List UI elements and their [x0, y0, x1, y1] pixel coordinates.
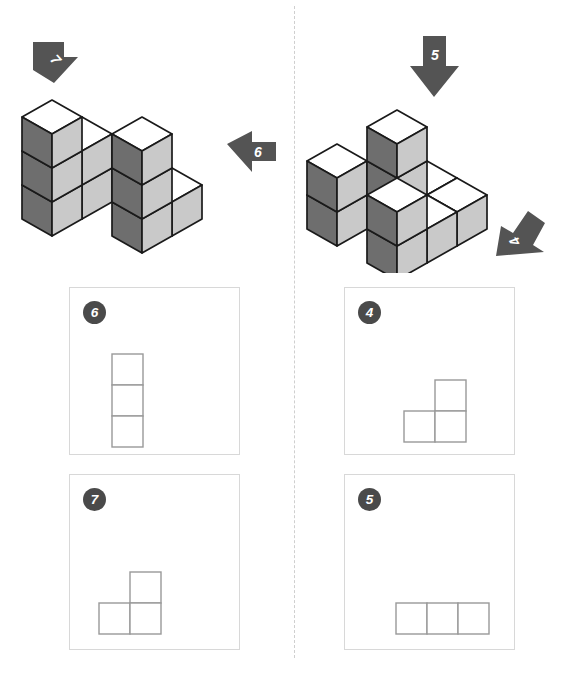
arrow-4: 4	[496, 211, 545, 256]
cube-structure-right: 5 4	[305, 28, 563, 273]
shape-squares	[99, 572, 161, 634]
left-cube-group	[22, 100, 202, 253]
right-cube-group	[307, 110, 487, 273]
answer-box-6[interactable]: 6	[69, 287, 240, 455]
cube-structure-left: 7 6	[20, 30, 285, 265]
answer-box-5-shape	[345, 475, 516, 651]
answer-box-4[interactable]: 4	[344, 287, 515, 455]
shape-squares	[396, 603, 489, 634]
arrow-5: 5	[410, 36, 459, 97]
vertical-dashed-divider	[294, 6, 295, 658]
arrow-6-label: 6	[254, 144, 262, 160]
arrow-5-label: 5	[431, 47, 439, 63]
answer-box-5[interactable]: 5	[344, 474, 515, 650]
arrow-6: 6	[227, 131, 276, 172]
right-figure-svg: 5 4	[305, 28, 563, 273]
answer-box-7-shape	[70, 475, 241, 651]
answer-box-4-shape	[345, 288, 516, 456]
answer-box-7[interactable]: 7	[69, 474, 240, 650]
answer-box-6-shape	[70, 288, 241, 456]
arrow-7: 7	[33, 42, 78, 83]
left-figure-svg: 7 6	[20, 30, 285, 265]
worksheet-page: 7 6 5 4 6	[0, 0, 572, 684]
shape-squares	[112, 354, 143, 447]
shape-squares	[404, 380, 466, 442]
